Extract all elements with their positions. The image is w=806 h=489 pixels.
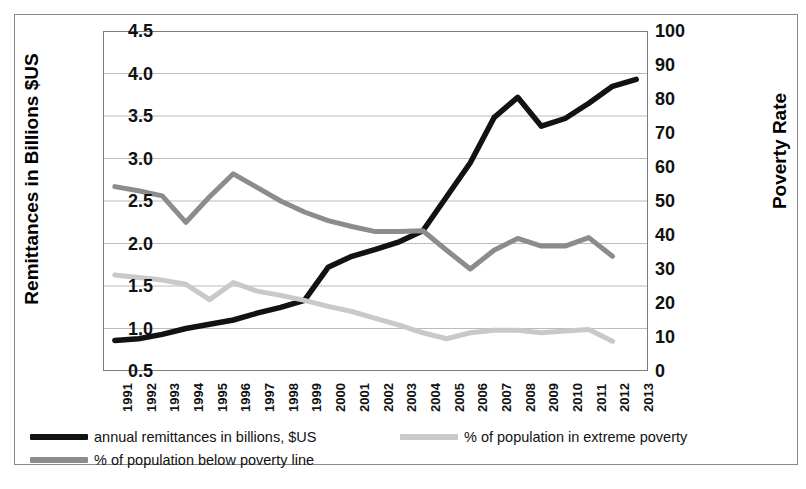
x-tick-1993: 1993 [167, 383, 182, 412]
x-tick-2001: 2001 [357, 383, 372, 412]
legend-row-1: annual remittances in billions, $US % of… [30, 425, 780, 448]
x-tick-2004: 2004 [428, 383, 443, 412]
x-tick-2010: 2010 [570, 383, 585, 412]
y-tick-left-7: 4.0 [93, 65, 153, 83]
series-line-0 [115, 79, 636, 340]
x-tick-2003: 2003 [404, 383, 419, 412]
y-tick-left-4: 2.5 [93, 192, 153, 210]
legend-item-extreme-poverty: % of population in extreme poverty [400, 429, 687, 445]
x-tick-1995: 1995 [215, 383, 230, 412]
series-lines [103, 31, 648, 371]
y-tick-right-7: 70 [655, 124, 715, 142]
y-tick-right-10: 100 [655, 22, 715, 40]
legend-item-below-poverty: % of population below poverty line [30, 452, 400, 468]
y-tick-right-3: 30 [655, 260, 715, 278]
legend-swatch-remittances [30, 434, 88, 440]
y-tick-right-9: 90 [655, 56, 715, 74]
x-tick-2006: 2006 [475, 383, 490, 412]
x-tick-2000: 2000 [333, 383, 348, 412]
series-line-2 [115, 275, 613, 341]
x-tick-1992: 1992 [144, 383, 159, 412]
legend-label-extreme-poverty: % of population in extreme poverty [464, 429, 687, 445]
x-tick-2013: 2013 [641, 383, 656, 412]
y-tick-left-0: 0.5 [93, 362, 153, 380]
legend-label-below-poverty: % of population below poverty line [94, 452, 314, 468]
x-tick-2005: 2005 [452, 383, 467, 412]
y-axis-right-title: Poverty Rate [769, 31, 791, 271]
y-tick-right-1: 10 [655, 328, 715, 346]
x-tick-1998: 1998 [286, 383, 301, 412]
legend-swatch-extreme-poverty [400, 434, 458, 440]
y-tick-left-6: 3.5 [93, 107, 153, 125]
x-tick-2002: 2002 [381, 383, 396, 412]
y-tick-left-5: 3.0 [93, 150, 153, 168]
x-tick-2012: 2012 [617, 383, 632, 412]
y-tick-left-2: 1.5 [93, 277, 153, 295]
legend-swatch-below-poverty [30, 457, 88, 463]
y-tick-right-0: 0 [655, 362, 715, 380]
y-tick-right-8: 80 [655, 90, 715, 108]
legend-row-2: % of population below poverty line [30, 448, 780, 471]
y-axis-left-title: Remittances in Billions $US [21, 19, 43, 339]
legend-label-remittances: annual remittances in billions, $US [94, 429, 316, 445]
x-tick-2011: 2011 [594, 384, 609, 412]
y-tick-left-8: 4.5 [93, 22, 153, 40]
y-tick-right-2: 20 [655, 294, 715, 312]
x-tick-1991: 1991 [120, 383, 135, 412]
x-tick-2008: 2008 [523, 383, 538, 412]
y-tick-left-1: 1.0 [93, 320, 153, 338]
x-tick-1994: 1994 [191, 383, 206, 412]
y-tick-left-3: 2.0 [93, 235, 153, 253]
x-tick-1997: 1997 [262, 383, 277, 412]
chart-figure: Remittances in Billions $US Poverty Rate… [0, 0, 806, 489]
x-tick-1999: 1999 [309, 383, 324, 412]
y-tick-right-6: 60 [655, 158, 715, 176]
y-tick-right-5: 50 [655, 192, 715, 210]
x-tick-2007: 2007 [499, 383, 514, 412]
plot-area [103, 31, 648, 371]
y-tick-right-4: 40 [655, 226, 715, 244]
chart-legend: annual remittances in billions, $US % of… [30, 425, 780, 471]
legend-item-remittances: annual remittances in billions, $US [30, 429, 400, 445]
x-tick-1996: 1996 [238, 383, 253, 412]
x-tick-2009: 2009 [546, 383, 561, 412]
